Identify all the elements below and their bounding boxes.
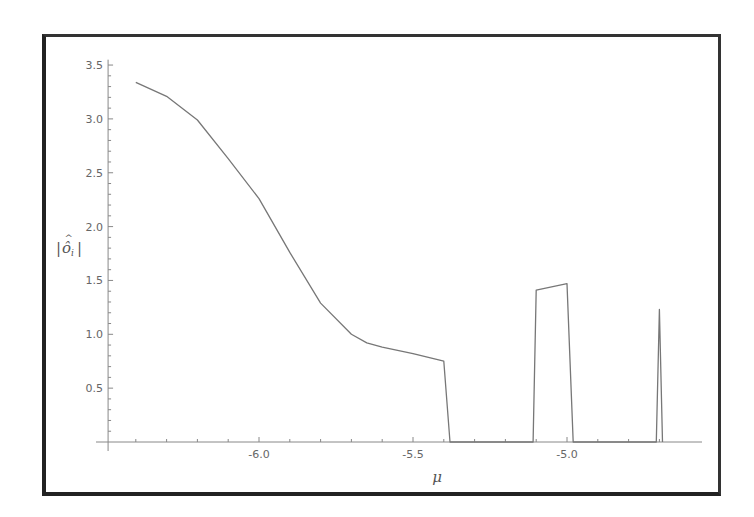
- y-tick-label: 1.0: [86, 328, 104, 341]
- svg-text:|: |: [56, 239, 61, 257]
- y-axis: 0.51.01.52.02.53.03.5: [86, 59, 114, 451]
- x-tick-label: -5.0: [556, 448, 577, 461]
- y-axis-title: | ô i | ^: [56, 232, 82, 258]
- data-series-line: [136, 82, 663, 442]
- x-tick-label: -5.5: [402, 448, 423, 461]
- y-tick-label: 3.0: [86, 113, 104, 126]
- svg-text:^: ^: [65, 232, 73, 243]
- y-tick-label: 0.5: [86, 382, 104, 395]
- svg-text:i: i: [71, 248, 74, 258]
- y-tick-label: 3.5: [86, 59, 104, 72]
- svg-text:|: |: [77, 239, 82, 257]
- y-tick-label: 2.5: [86, 167, 104, 180]
- x-tick-label: -6.0: [248, 448, 269, 461]
- y-tick-label: 1.5: [86, 274, 104, 287]
- y-tick-label: 2.0: [86, 221, 104, 234]
- x-axis-title: μ: [432, 468, 442, 486]
- x-axis: -6.0-5.5-5.0: [96, 437, 702, 461]
- line-chart: 0.51.01.52.02.53.03.5 -6.0-5.5-5.0 μ | ô…: [0, 0, 754, 517]
